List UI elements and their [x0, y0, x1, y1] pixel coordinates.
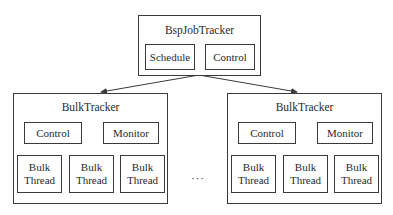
arrow-to-right-bulktracker — [199, 75, 297, 92]
bulk-thread-box: Bulk Thread — [120, 155, 165, 193]
bulk-thread-label-line1: Bulk — [243, 161, 264, 174]
bulk-thread-label-line2: Thread — [238, 174, 269, 187]
bulk-thread-box: Bulk Thread — [69, 155, 114, 193]
jobtracker-control-box: Control — [205, 44, 255, 70]
ellipsis: ··· — [191, 172, 205, 184]
bulk-thread-label-line2: Thread — [127, 174, 158, 187]
bulktracker-title: BulkTracker — [228, 101, 381, 113]
bulk-thread-label-line2: Thread — [24, 174, 55, 187]
bulktracker-control-box: Control — [24, 122, 82, 144]
schedule-box: Schedule — [145, 44, 195, 70]
bulk-thread-label-line1: Bulk — [346, 161, 367, 174]
bulk-thread-label-line1: Bulk — [132, 161, 153, 174]
bulk-thread-box: Bulk Thread — [283, 155, 328, 193]
bulk-thread-label-line1: Bulk — [81, 161, 102, 174]
bulktracker-control-box: Control — [238, 122, 296, 144]
bspjobtracker-box: BspJobTracker Schedule Control — [138, 15, 261, 76]
bulk-thread-label-line1: Bulk — [29, 161, 50, 174]
arrow-to-left-bulktracker — [101, 75, 199, 92]
bulktracker-monitor-box: Monitor — [317, 122, 373, 144]
bulktracker-monitor-box: Monitor — [103, 122, 159, 144]
bspjobtracker-title: BspJobTracker — [139, 24, 260, 36]
bulk-thread-label-line2: Thread — [76, 174, 107, 187]
bulk-thread-label-line2: Thread — [341, 174, 372, 187]
bulktracker-title: BulkTracker — [14, 101, 167, 113]
bulk-thread-label-line2: Thread — [290, 174, 321, 187]
bulk-thread-box: Bulk Thread — [231, 155, 276, 193]
bulk-thread-box: Bulk Thread — [17, 155, 62, 193]
bulktracker-box-right: BulkTracker Control Monitor Bulk Thread … — [227, 93, 382, 204]
bulk-thread-box: Bulk Thread — [334, 155, 379, 193]
bulk-thread-label-line1: Bulk — [295, 161, 316, 174]
bulktracker-box-left: BulkTracker Control Monitor Bulk Thread … — [13, 93, 168, 204]
